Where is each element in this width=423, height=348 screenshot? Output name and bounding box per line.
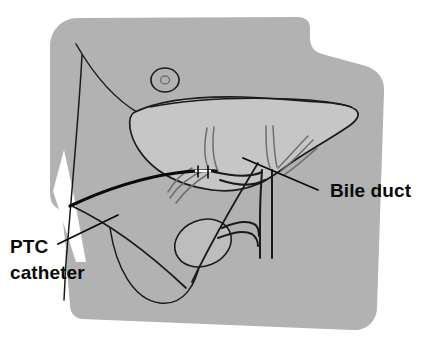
ptc-catheter-label-line2: catheter bbox=[10, 262, 85, 283]
anatomy-illustration: Bile duct PTC catheter bbox=[0, 0, 423, 348]
ptc-catheter-label-line1: PTC bbox=[10, 236, 48, 257]
ptc-catheter-figure: Bile duct PTC catheter bbox=[0, 0, 423, 348]
bile-duct-label: Bile duct bbox=[330, 180, 412, 201]
